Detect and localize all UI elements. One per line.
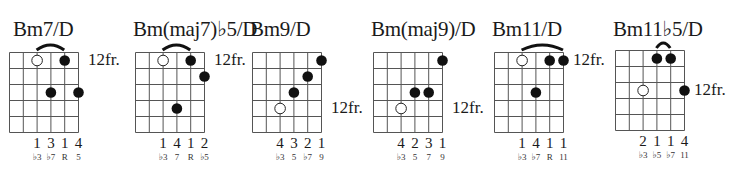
interval-label: R [547, 152, 553, 162]
finger-dot [423, 87, 434, 98]
root-open-dot [517, 55, 528, 66]
fretboard-grid [9, 52, 80, 134]
barre-arc [522, 45, 563, 50]
finger-number: 1 [33, 135, 41, 152]
interval-label: ♭7 [303, 152, 312, 162]
finger-number: 4 [532, 135, 540, 152]
fretboard-grid [252, 52, 323, 134]
finger-number: 1 [653, 133, 661, 150]
interval-label: 11 [559, 152, 568, 162]
finger-dot [316, 55, 327, 66]
finger-number: 4 [173, 135, 181, 152]
fretboard-grid [373, 52, 444, 134]
root-open-dot [275, 103, 286, 114]
root-open-dot [32, 55, 43, 66]
interval-label: ♭5 [653, 150, 662, 160]
root-open-dot [158, 55, 169, 66]
fretboard-grid [615, 50, 686, 132]
finger-number: 4 [681, 133, 689, 150]
chord-name: Bm(maj9)/D [371, 17, 475, 42]
interval-label: 5 [413, 152, 418, 162]
finger-dot [652, 53, 663, 64]
finger-dot [531, 87, 542, 98]
interval-label: ♭3 [33, 152, 42, 162]
chord-name: Bm7/D [13, 17, 73, 42]
fret-position-label: 12fr. [452, 98, 484, 118]
interval-label: 11 [680, 150, 689, 160]
finger-number: 2 [304, 135, 312, 152]
finger-number: 1 [61, 135, 69, 152]
finger-number: 4 [276, 135, 284, 152]
fretboard-grid [135, 52, 206, 134]
barre-arc [37, 45, 65, 50]
finger-number: 2 [639, 133, 647, 150]
finger-dot [665, 53, 676, 64]
finger-dot [289, 87, 300, 98]
finger-dot [544, 55, 555, 66]
finger-dot [73, 87, 84, 98]
finger-number: 1 [159, 135, 167, 152]
finger-number: 2 [411, 135, 419, 152]
chord-name: Bm9/D [250, 17, 310, 42]
finger-dot [185, 55, 196, 66]
finger-number: 3 [47, 135, 55, 152]
interval-label: 7 [175, 152, 180, 162]
interval-label: ♭5 [200, 152, 209, 162]
finger-number: 1 [187, 135, 195, 152]
barre-arc [163, 45, 191, 50]
interval-label: R [188, 152, 194, 162]
interval-label: 5 [76, 152, 81, 162]
finger-dot [437, 55, 448, 66]
finger-dot [679, 85, 690, 96]
finger-number: 1 [318, 135, 326, 152]
finger-number: 3 [425, 135, 433, 152]
finger-dot [172, 103, 183, 114]
finger-dot [46, 87, 57, 98]
interval-label: 5 [292, 152, 297, 162]
finger-number: 1 [518, 135, 526, 152]
chord-name: Bm11♭5/D [613, 17, 703, 42]
fretboard-grid [494, 52, 565, 134]
finger-dot [59, 55, 70, 66]
finger-number: 1 [667, 133, 675, 150]
chord-name: Bm11/D [492, 17, 562, 42]
interval-label: ♭7 [47, 152, 56, 162]
finger-number: 1 [560, 135, 568, 152]
interval-label: 7 [426, 152, 431, 162]
interval-label: ♭3 [159, 152, 168, 162]
finger-dot [410, 87, 421, 98]
fret-position-label: 12fr. [694, 80, 726, 100]
finger-number: 1 [439, 135, 447, 152]
chord-name: Bm(maj7)♭5/D [133, 17, 257, 42]
interval-label: ♭3 [639, 150, 648, 160]
root-open-dot [638, 85, 649, 96]
interval-label: R [62, 152, 68, 162]
interval-label: ♭3 [518, 152, 527, 162]
finger-dot [558, 55, 569, 66]
finger-number: 4 [397, 135, 405, 152]
fret-position-label: 12fr. [214, 50, 246, 70]
finger-dot [302, 71, 313, 82]
fret-position-label: 12fr. [573, 50, 605, 70]
finger-number: 2 [201, 135, 209, 152]
finger-number: 4 [75, 135, 83, 152]
fret-position-label: 12fr. [331, 98, 363, 118]
interval-label: ♭3 [397, 152, 406, 162]
interval-label: 9 [319, 152, 324, 162]
interval-label: ♭7 [532, 152, 541, 162]
interval-label: ♭7 [666, 150, 675, 160]
finger-number: 1 [546, 135, 554, 152]
barre-arc [656, 43, 670, 48]
interval-label: ♭3 [276, 152, 285, 162]
fret-position-label: 12fr. [88, 50, 120, 70]
finger-dot [199, 71, 210, 82]
root-open-dot [396, 103, 407, 114]
interval-label: 9 [440, 152, 445, 162]
finger-number: 3 [290, 135, 298, 152]
